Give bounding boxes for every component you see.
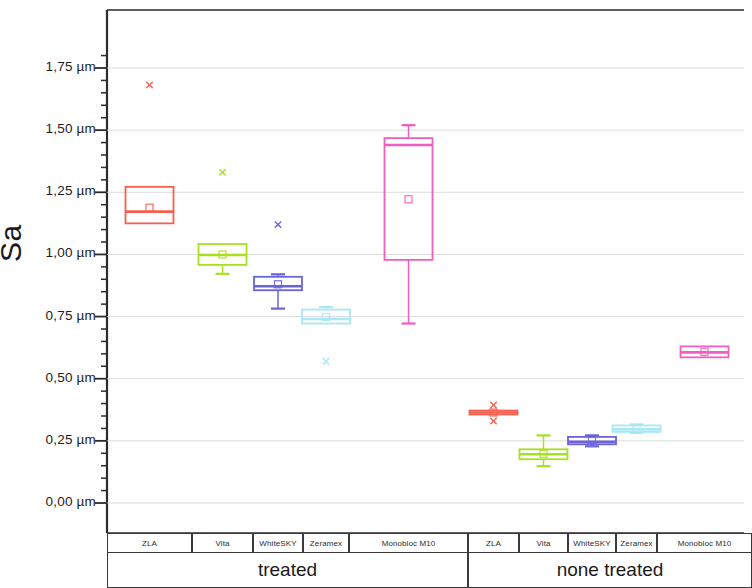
category-label-vita: Vita bbox=[519, 533, 568, 553]
box bbox=[385, 138, 433, 260]
box-plot-treated-Monobloc-M10 bbox=[385, 125, 433, 323]
category-label-monobloc-m10: Monobloc M10 bbox=[349, 533, 468, 553]
mean-marker bbox=[405, 196, 412, 203]
box-plot-treated-Zeramex bbox=[302, 307, 350, 364]
category-label-zla: ZLA bbox=[107, 533, 192, 553]
box-plot-none-treated-Zeramex bbox=[613, 424, 661, 432]
box-plot-treated-Vita bbox=[199, 169, 247, 274]
box-plot-none-treated-Vita bbox=[520, 435, 568, 466]
category-label-whitesky: WhiteSKY bbox=[253, 533, 303, 553]
category-label-monobloc-m10: Monobloc M10 bbox=[657, 533, 752, 553]
box-plot-none-treated-Monobloc-M10 bbox=[681, 346, 729, 357]
category-label-zeramex: Zeramex bbox=[303, 533, 349, 553]
box-plot-treated-WhiteSKY bbox=[254, 221, 302, 308]
category-label-zla: ZLA bbox=[468, 533, 519, 553]
mean-marker bbox=[146, 204, 153, 211]
box-plot-treated-ZLA bbox=[126, 82, 174, 224]
category-label-vita: Vita bbox=[192, 533, 253, 553]
group-label-none-treated: none treated bbox=[468, 553, 752, 588]
category-label-zeramex: Zeramex bbox=[616, 533, 657, 553]
group-label-treated: treated bbox=[107, 553, 468, 588]
category-label-whitesky: WhiteSKY bbox=[568, 533, 616, 553]
box-plot-none-treated-WhiteSKY bbox=[568, 435, 616, 446]
box-plot-none-treated-ZLA bbox=[470, 402, 518, 424]
